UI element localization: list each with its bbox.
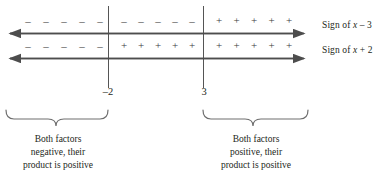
sign-glyph: +	[215, 14, 223, 26]
row-label-suffix: + 2	[357, 45, 372, 55]
sign-glyph: –	[60, 40, 68, 52]
sign-glyph: –	[24, 40, 32, 52]
tick-label-neg-two: –2	[93, 86, 123, 97]
signs-row1-left-of-neg2: – – – – –	[24, 15, 104, 27]
sign-glyph: +	[285, 39, 293, 51]
sign-glyph: +	[233, 39, 241, 51]
sign-glyph: +	[285, 14, 293, 26]
brace-left	[6, 110, 108, 126]
sign-glyph: –	[42, 15, 50, 27]
signs-row2-right-of-3: + + + + +	[215, 39, 293, 51]
sign-glyph: –	[60, 15, 68, 27]
sign-glyph: +	[268, 14, 276, 26]
sign-chart-figure: – – – – – – – – – – + + + + + – – – – – …	[0, 0, 387, 178]
sign-glyph: +	[233, 14, 241, 26]
row-label-x-plus-2: Sign of x + 2	[322, 45, 372, 55]
signs-row2-left-of-neg2: – – – – –	[24, 40, 104, 52]
sign-glyph: –	[96, 15, 104, 27]
sign-glyph: –	[188, 15, 196, 27]
sign-glyph: –	[42, 40, 50, 52]
signs-row1-right-of-3: + + + + +	[215, 14, 293, 26]
row-label-prefix: Sign of	[322, 45, 353, 55]
caption-left: Both factors negative, their product is …	[2, 133, 114, 172]
sign-glyph: –	[137, 15, 145, 27]
sign-glyph: +	[188, 39, 196, 51]
sign-glyph: –	[171, 15, 179, 27]
sign-glyph: +	[120, 39, 128, 51]
sign-glyph: +	[154, 39, 162, 51]
sign-glyph: +	[250, 39, 258, 51]
row-label-prefix: Sign of	[322, 20, 353, 30]
sign-glyph: –	[96, 40, 104, 52]
sign-glyph: +	[250, 14, 258, 26]
sign-glyph: +	[268, 39, 276, 51]
sign-glyph: –	[24, 15, 32, 27]
brace-right	[203, 110, 308, 126]
tick-label-three: 3	[189, 86, 219, 97]
sign-glyph: +	[137, 39, 145, 51]
caption-right: Both factors positive, their product is …	[199, 133, 313, 172]
row-label-suffix: – 3	[357, 20, 372, 30]
sign-glyph: +	[171, 39, 179, 51]
sign-glyph: –	[154, 15, 162, 27]
sign-glyph: –	[78, 15, 86, 27]
sign-glyph: –	[78, 40, 86, 52]
row-label-x-minus-3: Sign of x – 3	[322, 20, 372, 30]
sign-glyph: +	[215, 39, 223, 51]
sign-glyph: –	[120, 15, 128, 27]
signs-row2-between-neg2-and-3: + + + + +	[120, 39, 196, 51]
signs-row1-between-neg2-and-3: – – – – –	[120, 15, 196, 27]
